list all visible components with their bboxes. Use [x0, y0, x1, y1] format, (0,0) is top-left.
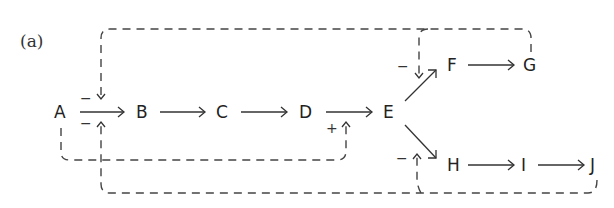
feedback-a-to-de-loop	[61, 124, 346, 160]
arrow-c-d	[241, 107, 287, 117]
feedback-pathway-diagram: (a)	[0, 0, 614, 208]
node-i: I	[521, 155, 526, 175]
node-c: C	[216, 102, 228, 122]
arrowhead-up-ab	[97, 122, 105, 127]
arrow-e-h	[405, 125, 436, 158]
panel-label: (a)	[20, 31, 43, 51]
arrow-i-j	[538, 160, 584, 170]
sign-ef-minus: −	[397, 58, 409, 74]
sign-eh-minus: −	[396, 150, 408, 166]
sign-ab-top: −	[80, 90, 92, 106]
arrow-b-c	[160, 107, 205, 117]
node-j: J	[589, 155, 595, 175]
node-h: H	[447, 155, 460, 175]
node-d: D	[299, 102, 312, 122]
node-b: B	[136, 102, 148, 122]
sign-ab-bottom: −	[80, 115, 92, 131]
arrow-e-f	[405, 70, 436, 101]
node-a: A	[54, 102, 66, 122]
node-e: E	[383, 102, 394, 122]
node-f: F	[447, 55, 457, 75]
feedback-g-top-loop	[101, 29, 531, 97]
arrow-h-i	[468, 160, 514, 170]
node-g: G	[523, 55, 536, 75]
sign-de-plus: +	[326, 120, 338, 136]
arrow-f-g	[468, 60, 514, 70]
arrow-d-e	[326, 107, 372, 117]
arrowhead-down-ef	[415, 73, 423, 78]
